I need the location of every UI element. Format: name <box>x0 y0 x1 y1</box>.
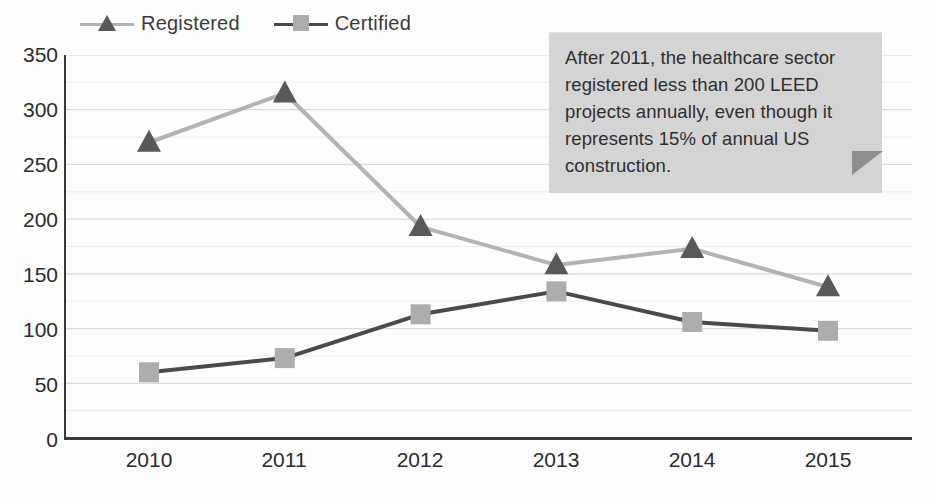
legend-label-certified: Certified <box>335 12 411 35</box>
chart-legend: Registered Certified <box>80 12 411 35</box>
x-tick-2013: 2013 <box>533 448 580 472</box>
y-tick-350: 350 <box>10 43 58 67</box>
y-tick-50: 50 <box>10 373 58 397</box>
legend-entry-registered[interactable]: Registered <box>80 12 240 35</box>
legend-label-registered: Registered <box>141 12 240 35</box>
y-tick-300: 300 <box>10 98 58 122</box>
y-tick-200: 200 <box>10 208 58 232</box>
y-tick-150: 150 <box>10 263 58 287</box>
callout-text: After 2011, the healthcare sector regist… <box>565 44 866 179</box>
x-axis-tick-labels: 2010 2011 2012 2013 2014 2015 <box>64 448 912 482</box>
x-tick-2011: 2011 <box>261 448 306 472</box>
y-tick-100: 100 <box>10 318 58 342</box>
x-tick-2010: 2010 <box>126 448 173 472</box>
legend-entry-certified[interactable]: Certified <box>274 12 411 35</box>
y-axis-tick-labels: 350 300 250 200 150 100 50 0 <box>0 55 58 440</box>
x-tick-2015: 2015 <box>805 448 852 472</box>
y-tick-0: 0 <box>10 428 58 452</box>
y-tick-250: 250 <box>10 153 58 177</box>
callout-tail <box>852 151 883 175</box>
square-marker-icon <box>291 13 311 33</box>
x-tick-2014: 2014 <box>669 448 716 472</box>
callout-annotation: After 2011, the healthcare sector regist… <box>549 32 882 193</box>
x-tick-2012: 2012 <box>397 448 444 472</box>
legend-swatch-certified <box>274 13 328 35</box>
line-chart: Registered Certified 350 300 250 200 150… <box>0 0 931 502</box>
triangle-marker-icon <box>97 13 117 33</box>
legend-swatch-registered <box>80 13 134 35</box>
